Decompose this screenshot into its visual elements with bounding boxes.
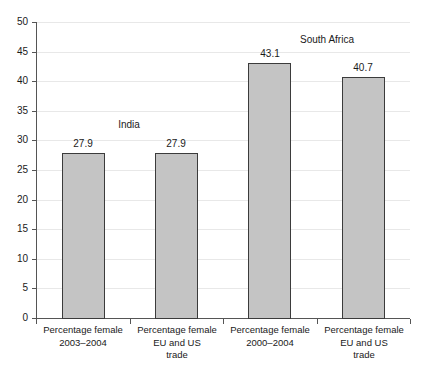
y-tick-mark-35 [32,111,36,112]
gridline-50 [36,22,410,23]
x-category-label-3-line-2: trade [317,349,411,362]
bar-1[interactable] [155,153,198,319]
y-tick-label-20: 20 [2,195,28,205]
bar-2[interactable] [248,63,291,319]
y-tick-mark-25 [32,170,36,171]
bar-value-1: 27.9 [146,139,206,149]
x-category-label-1-line-2: trade [130,349,224,362]
y-tick-mark-45 [32,52,36,53]
y-tick-label-30: 30 [2,135,28,145]
y-tick-label-45: 45 [2,47,28,57]
y-tick-label-0: 0 [2,313,28,323]
y-tick-label-50: 50 [2,17,28,27]
x-category-label-2-line-1: 2000–2004 [223,337,317,350]
x-category-label-3-line-1: EU and US [317,337,411,350]
y-tick-mark-30 [32,140,36,141]
x-category-label-1: Percentage female EU and US trade [130,324,224,362]
y-tick-mark-40 [32,81,36,82]
bar-value-3: 40.7 [333,63,393,73]
bar-3[interactable] [342,77,385,319]
y-tick-label-35: 35 [2,106,28,116]
x-category-label-1-line-1: EU and US [130,337,224,350]
y-tick-label-10: 10 [2,254,28,264]
y-tick-label-40: 40 [2,76,28,86]
y-tick-mark-5 [32,288,36,289]
bar-value-0: 27.9 [53,139,113,149]
y-tick-mark-50 [32,22,36,23]
group-annotation-south-africa: South Africa [267,35,387,45]
x-category-label-0: Percentage female 2003–2004 [36,324,130,349]
x-category-label-0-line-0: Percentage female [36,324,130,337]
bar-chart: 50 45 40 35 30 25 20 15 10 5 0 27.9 27.9… [0,0,429,375]
y-tick-mark-20 [32,200,36,201]
y-tick-mark-10 [32,259,36,260]
x-category-label-2-line-0: Percentage female [223,324,317,337]
bar-0[interactable] [62,153,105,319]
bar-value-2: 43.1 [240,49,300,59]
x-category-label-2: Percentage female 2000–2004 [223,324,317,349]
y-tick-label-25: 25 [2,165,28,175]
group-annotation-india: India [69,120,189,130]
y-tick-label-5: 5 [2,283,28,293]
y-tick-label-15: 15 [2,224,28,234]
gridline-45 [36,52,410,53]
y-tick-mark-15 [32,229,36,230]
y-axis-line [36,22,37,319]
x-category-label-0-line-1: 2003–2004 [36,337,130,350]
x-category-label-3: Percentage female EU and US trade [317,324,411,362]
x-category-label-1-line-0: Percentage female [130,324,224,337]
x-category-label-3-line-0: Percentage female [317,324,411,337]
